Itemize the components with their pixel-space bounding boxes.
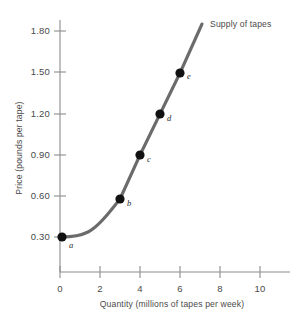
y-tick-label-3: 1.20 (31, 108, 50, 119)
chart-canvas: 0.30 0.60 0.90 1.20 1.50 1.80 0 2 4 6 8 … (0, 0, 300, 321)
x-tick-label-2: 4 (137, 283, 142, 294)
data-point-label-d: d (167, 113, 172, 123)
x-tick-label-0: 0 (57, 283, 62, 294)
supply-curve-path (62, 24, 202, 237)
y-tick-label-0: 0.30 (31, 231, 50, 242)
data-point-label-a: a (69, 240, 73, 250)
y-axis-title: Price (pounds per tape) (14, 101, 24, 194)
data-point-a (57, 232, 66, 241)
y-tick-label-4: 1.50 (31, 66, 50, 77)
data-point-d (155, 109, 164, 118)
data-point-c (135, 150, 144, 159)
x-tick-label-3: 6 (177, 283, 182, 294)
data-point-e (175, 68, 184, 77)
y-tick-label-2: 0.90 (31, 149, 50, 160)
data-point-b (115, 194, 124, 203)
y-tick-label-1: 0.60 (31, 190, 50, 201)
data-point-label-b: b (127, 198, 131, 208)
x-tick-label-5: 10 (255, 283, 266, 294)
x-tick-label-4: 8 (217, 283, 222, 294)
series-label-supply: Supply of tapes (210, 19, 272, 29)
y-tick-label-5: 1.80 (31, 25, 50, 36)
data-point-label-c: c (147, 154, 151, 164)
supply-curve-chart: 0.30 0.60 0.90 1.20 1.50 1.80 0 2 4 6 8 … (0, 0, 300, 321)
x-axis-title: Quantity (millions of tapes per week) (100, 299, 245, 309)
x-tick-label-1: 2 (97, 283, 102, 294)
data-point-label-e: e (187, 71, 191, 81)
